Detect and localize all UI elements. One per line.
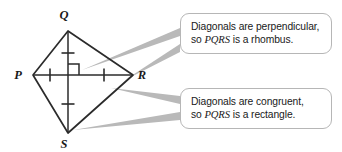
callout-rhombus-line1: Diagonals are perpendicular, (191, 20, 322, 33)
vertex-label-q: Q (59, 8, 68, 22)
callout-rhombus: Diagonals are perpendicular, so PQRS is … (180, 13, 332, 54)
callout-rectangle-line2-math: PQRS (204, 109, 230, 120)
vertex-label-r: R (137, 68, 146, 82)
vertex-label-p: P (14, 68, 22, 82)
callout-rectangle-line2-prefix: so (191, 109, 204, 120)
callout-rhombus-line2: so PQRS is a rhombus. (191, 33, 322, 46)
callout-rectangle-line2: so PQRS is a rectangle. (191, 108, 322, 121)
callout-rectangle-line1: Diagonals are congruent, (191, 95, 322, 108)
leader-line-rectangle-upper (111, 88, 180, 104)
vertex-label-s: S (61, 137, 68, 151)
rhombus-outline (33, 31, 133, 133)
callout-rectangle: Diagonals are congruent, so PQRS is a re… (180, 88, 332, 129)
geometry-figure-page: P Q R S Diagonals are perpendicular, so … (0, 0, 342, 152)
right-angle-marker-icon (68, 64, 79, 75)
callout-rhombus-line2-prefix: so (191, 34, 204, 45)
callout-rhombus-line2-suffix: is a rhombus. (230, 34, 293, 45)
callout-rhombus-line2-math: PQRS (204, 34, 230, 45)
leader-line-rhombus-upper (82, 28, 180, 70)
callout-rectangle-line2-suffix: is a rectangle. (230, 109, 295, 120)
